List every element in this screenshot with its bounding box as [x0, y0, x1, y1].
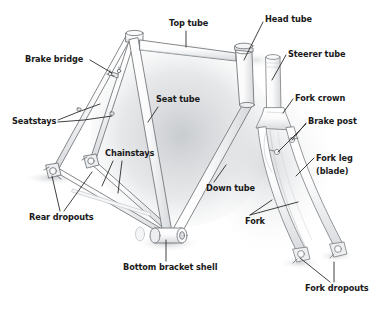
label-rear-dropouts-line-1: Rear dropouts — [29, 213, 94, 223]
label-fork-crown-line-1: Fork crown — [295, 94, 345, 104]
label-bottom-bracket-shell-line-1: Bottom bracket shell — [123, 263, 217, 273]
label-brake-post-line-1: Brake post — [308, 117, 357, 127]
label-head-tube: Head tube — [265, 15, 312, 25]
label-seatstays-line-1: Seatstays — [12, 117, 56, 127]
label-rear-dropouts: Rear dropouts — [29, 213, 94, 223]
label-chainstays: Chainstays — [105, 149, 154, 159]
label-seat-tube-line-1: Seat tube — [156, 95, 200, 105]
label-steerer-tube: Steerer tube — [288, 50, 345, 60]
label-head-tube-line-1: Head tube — [265, 15, 312, 25]
label-seat-tube: Seat tube — [156, 95, 200, 105]
label-fork-dropouts: Fork dropouts — [305, 284, 369, 294]
label-fork-leg-blade-line-1: Fork leg — [316, 152, 353, 165]
label-fork: Fork — [245, 217, 265, 227]
label-down-tube: Down tube — [206, 184, 255, 194]
label-fork-line-1: Fork — [245, 217, 265, 227]
steerer-tube-part — [266, 55, 281, 110]
label-chainstays-line-1: Chainstays — [105, 149, 154, 159]
label-fork-leg-blade: Fork leg(blade) — [316, 152, 353, 177]
label-top-tube-line-1: Top tube — [169, 19, 208, 29]
label-brake-bridge: Brake bridge — [25, 55, 83, 65]
label-top-tube: Top tube — [169, 19, 208, 29]
label-down-tube-line-1: Down tube — [206, 184, 255, 194]
label-brake-post: Brake post — [308, 117, 357, 127]
label-fork-dropouts-line-1: Fork dropouts — [305, 284, 369, 294]
label-fork-leg-blade-line-2: (blade) — [316, 165, 353, 178]
label-seatstays: Seatstays — [12, 117, 56, 127]
label-fork-crown: Fork crown — [295, 94, 345, 104]
label-brake-bridge-line-1: Brake bridge — [25, 55, 83, 65]
rear-dropout-far — [82, 154, 99, 168]
label-bottom-bracket-shell: Bottom bracket shell — [123, 263, 217, 273]
label-steerer-tube-line-1: Steerer tube — [288, 50, 345, 60]
